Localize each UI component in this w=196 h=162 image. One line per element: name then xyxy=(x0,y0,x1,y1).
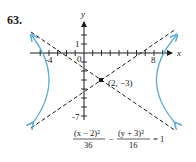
x-axis-label: x xyxy=(176,48,181,58)
y-tick-label-1: 1 xyxy=(75,39,80,49)
equation-rhs: = 1 xyxy=(153,134,164,144)
x-tick-label-0: 0 xyxy=(77,54,82,64)
equation-term1-denominator: 36 xyxy=(84,140,93,150)
center-point: (2, −3) xyxy=(99,78,133,88)
asymptote-lines xyxy=(31,29,176,131)
hyperbola-graph: x -4 0 8 y 1 -7 (2, −3) (x − 2)² xyxy=(0,0,196,162)
equation-term2-denominator: 16 xyxy=(129,140,138,150)
left-branch xyxy=(32,36,49,124)
center-label: (2, −3) xyxy=(108,78,133,88)
equation-term1-numerator: (x − 2)² xyxy=(74,128,100,138)
equation-minus: − xyxy=(109,134,114,144)
right-branch xyxy=(157,36,177,124)
y-tick-label-neg7: -7 xyxy=(72,112,80,122)
x-axis: x -4 0 8 xyxy=(30,48,181,65)
hyperbola-branches xyxy=(32,36,176,124)
equation-term2-numerator: (y + 3)² xyxy=(118,128,144,138)
equation: (x − 2)² 36 − (y + 3)² 16 = 1 xyxy=(73,128,164,150)
y-axis-label: y xyxy=(80,9,85,19)
x-tick-label-8: 8 xyxy=(151,55,156,65)
